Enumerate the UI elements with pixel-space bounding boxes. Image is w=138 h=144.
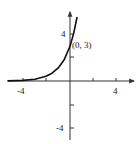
- y-tick-label-neg4: -4: [56, 123, 64, 133]
- x-tick-label-neg4: -4: [17, 86, 25, 96]
- exponential-curve: [8, 18, 77, 81]
- x-tick-label-pos4: 4: [113, 86, 118, 96]
- graph: (0, 3) -4 4 4 -4: [0, 0, 138, 144]
- point-label: (0, 3): [72, 40, 92, 50]
- y-tick-label-pos4: 4: [61, 29, 66, 39]
